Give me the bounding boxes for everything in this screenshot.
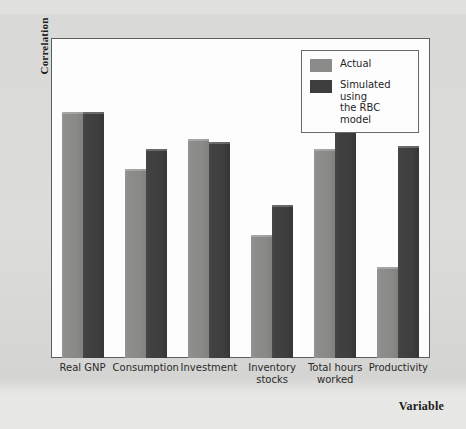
bar-highlight: [377, 267, 398, 269]
bar-actual: [377, 267, 398, 358]
bar-highlight: [209, 142, 230, 144]
legend-label: Actual: [340, 58, 371, 70]
legend-entry: Actual: [310, 58, 411, 72]
bar-highlight: [146, 149, 167, 151]
bar-simulated: [272, 205, 293, 358]
bar-highlight: [398, 146, 419, 148]
legend-label-line: Simulated using: [340, 79, 411, 102]
legend-label: Simulated usingthe RBC model: [340, 79, 411, 125]
chart-page: Correlation 0.00.10.20.30.40.50.60.70.80…: [0, 0, 466, 429]
bar-simulated: [209, 142, 230, 358]
paper-texture-top: [0, 0, 466, 14]
bar-actual: [314, 149, 335, 358]
chart-legend: ActualSimulated usingthe RBC model: [301, 50, 419, 133]
bar-simulated: [146, 149, 167, 358]
legend-label-line: the RBC model: [340, 102, 411, 125]
x-axis-tick-label-line: Productivity: [361, 362, 436, 374]
legend-swatch: [310, 80, 332, 93]
x-axis-tick-label: Productivity: [361, 362, 436, 374]
bar-actual: [125, 169, 146, 358]
bar-actual: [62, 112, 83, 358]
bar-simulated: [83, 112, 104, 358]
bar-simulated: [335, 124, 356, 358]
bar-actual: [188, 139, 209, 358]
x-axis-tick-label-line: worked: [298, 374, 373, 386]
bar-highlight: [83, 112, 104, 114]
y-axis-title: Correlation: [38, 0, 50, 106]
bar-simulated: [398, 146, 419, 358]
bar-highlight: [251, 235, 272, 237]
bar-highlight: [272, 205, 293, 207]
bar-highlight: [62, 112, 83, 114]
bar-actual: [251, 235, 272, 358]
paper-texture-bottom: [0, 400, 466, 429]
x-axis-tick-labels: Real GNPConsumptionInvestmentInventoryst…: [51, 362, 430, 396]
legend-swatch: [310, 59, 332, 72]
legend-entry: Simulated usingthe RBC model: [310, 79, 411, 125]
bar-highlight: [314, 149, 335, 151]
bar-highlight: [125, 169, 146, 171]
bar-highlight: [188, 139, 209, 141]
x-axis-title: Variable: [399, 399, 444, 414]
